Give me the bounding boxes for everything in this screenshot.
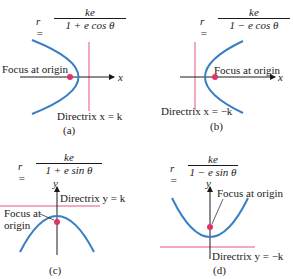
- fraction: ke 1 − e sin θ: [188, 153, 238, 178]
- directrix-label-d: Directrix y = −k: [212, 250, 283, 262]
- equation-lhs: r =: [36, 15, 43, 39]
- numerator: ke: [54, 6, 126, 18]
- focus-point: [207, 224, 213, 230]
- numerator: ke: [36, 151, 102, 163]
- focus-leader-line: [212, 199, 223, 224]
- axis-label-a: x: [118, 71, 123, 83]
- focus-label-d: Focus at origin: [217, 187, 283, 199]
- focus-label-b: Focus at origin: [214, 64, 280, 76]
- denominator: 1 + e sin θ: [36, 164, 102, 176]
- denominator: 1 − e sin θ: [188, 166, 238, 178]
- focus-label-a: Focus at origin: [2, 63, 68, 75]
- caption-b: (b): [210, 120, 223, 132]
- caption-c: (c): [49, 264, 61, 276]
- caption-a: (a): [63, 124, 75, 136]
- panel-a-graphics: [20, 40, 114, 114]
- directrix-label-b: Directrix x = −k: [161, 105, 232, 117]
- directrix-label-a: Directrix x = k: [57, 110, 122, 122]
- directrix-label-c: Directrix y = k: [60, 192, 125, 204]
- axis-label-c: y: [53, 177, 58, 189]
- numerator: ke: [188, 153, 238, 165]
- axis-label-d: y: [206, 177, 211, 189]
- equation-lhs: r =: [200, 15, 207, 39]
- denominator: 1 + e cos θ: [54, 19, 126, 31]
- diagram-graphics: [0, 0, 293, 279]
- denominator: 1 − e cos θ: [218, 19, 290, 31]
- focus-label-c-line1: Focus at: [4, 207, 41, 219]
- caption-d: (d): [213, 264, 226, 276]
- numerator: ke: [218, 6, 290, 18]
- panel-b-graphics: [180, 41, 275, 113]
- focus-point: [54, 219, 60, 225]
- axis-label-b: x: [278, 71, 283, 83]
- fraction: ke 1 + e sin θ: [36, 151, 102, 176]
- fraction: ke 1 + e cos θ: [54, 6, 126, 31]
- fraction: ke 1 − e cos θ: [218, 6, 290, 31]
- equation-lhs: r =: [170, 162, 177, 186]
- conic-polar-diagram: r = ke 1 + e cos θ Focus at origin x Dir…: [0, 0, 293, 279]
- equation-lhs: r =: [18, 160, 25, 184]
- focus-label-c-line2: origin: [4, 219, 30, 231]
